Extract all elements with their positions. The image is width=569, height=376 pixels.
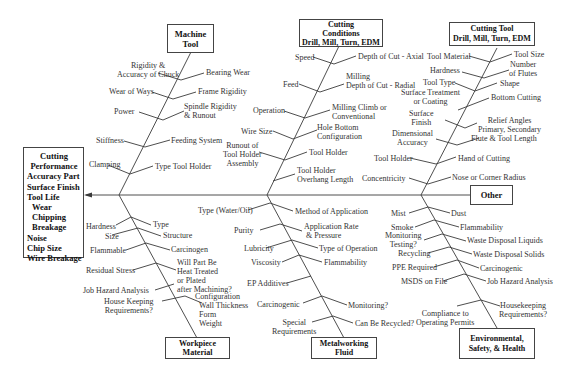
category-title-line: Material bbox=[166, 348, 229, 357]
cause-label: Purity bbox=[234, 226, 254, 235]
effect-box-cutting-performance: Cutting Performance Accuracy Part Surfac… bbox=[23, 147, 84, 258]
cause-label: Flammable bbox=[90, 246, 126, 255]
cause-label: Application Rate& Pressure bbox=[304, 222, 358, 240]
category-title-line: Drill, Mill, Turn, EDM bbox=[300, 38, 382, 47]
effect-item: Accuracy Part bbox=[27, 171, 81, 181]
cause-label: Surface Treatmentor Coating bbox=[401, 88, 460, 106]
cause-label: Tool Type bbox=[423, 78, 455, 87]
cause-label: EP Additives bbox=[247, 279, 289, 288]
cause-label: Mist bbox=[391, 209, 406, 218]
category-box-cutting-conditions: Cutting Conditions Drill, Mill, Turn, ED… bbox=[299, 19, 383, 47]
cause-label: Method of Application bbox=[295, 207, 368, 216]
effect-title-line: Cutting bbox=[27, 151, 81, 161]
cause-label: Tool Holder bbox=[374, 154, 413, 163]
effect-item: Chipping bbox=[27, 212, 81, 222]
cause-label: Relief AnglesPrimary, Secondary bbox=[478, 116, 541, 134]
cause-label: Numberof Flutes bbox=[509, 60, 537, 78]
cause-label: Feed bbox=[283, 80, 299, 89]
cause-label: Bottom Cutting bbox=[491, 93, 541, 102]
cause-label: Monitoring? bbox=[348, 301, 388, 310]
cause-label: Stiffness bbox=[96, 136, 124, 145]
cause-label: Flammability bbox=[324, 258, 367, 267]
cause-label: Operation bbox=[253, 106, 285, 115]
effect-item: Surface Finish bbox=[27, 182, 81, 192]
cause-label: Nose or Corner Radius bbox=[452, 173, 526, 182]
category-box-workpiece-material: Workpiece Material bbox=[165, 337, 230, 359]
cause-label: Waste Disposal Solids bbox=[473, 250, 544, 259]
cause-label: Carcinogen bbox=[171, 245, 208, 254]
effect-title-line: Performance bbox=[27, 161, 81, 171]
category-box-other: Other bbox=[470, 185, 513, 205]
cause-label: MonitoringTesting? bbox=[385, 231, 421, 249]
cause-label: Will Part BeHeat Treatedor Platedafter M… bbox=[177, 258, 232, 294]
category-title-line: Conditions bbox=[300, 29, 382, 38]
category-title-line: Metalworking bbox=[312, 339, 376, 348]
category-title-line: Cutting Tool bbox=[450, 24, 534, 34]
cause-label: Carcinogenic bbox=[480, 264, 523, 273]
cause-label: Job Hazard Analysis bbox=[487, 277, 553, 286]
cause-label: Concentricity bbox=[362, 174, 406, 183]
cause-label: Recycling bbox=[398, 249, 430, 258]
cause-label: Bearing Wear bbox=[206, 68, 250, 77]
category-title-line: Cutting bbox=[300, 20, 382, 29]
effect-item: Wear bbox=[27, 202, 81, 212]
cause-label: Type of Operation bbox=[319, 244, 378, 253]
effect-item: Noise bbox=[27, 233, 81, 243]
cause-label: Rigidity &Accuracy of Chuck bbox=[117, 61, 179, 79]
cause-label: Feeding System bbox=[171, 136, 222, 145]
cause-label: Flammability bbox=[460, 223, 503, 232]
cause-label: Dust bbox=[451, 209, 466, 218]
cause-label: HousekeepingRequirements? bbox=[499, 301, 547, 319]
cause-label: SurfaceFinish bbox=[409, 109, 433, 127]
effect-item: Tool Life bbox=[27, 192, 81, 202]
category-title-line: Environmental, bbox=[460, 334, 534, 344]
cause-label: Viscosity bbox=[251, 258, 281, 267]
cause-label: Flute & Tool Length bbox=[471, 134, 537, 143]
cause-label: Waste Disposal Liquids bbox=[467, 236, 543, 245]
cause-label: PPE Required bbox=[392, 263, 437, 272]
effect-item: Breakage bbox=[27, 222, 81, 232]
category-box-metalworking-fluid: Metalworking Fluid bbox=[311, 337, 377, 359]
cause-label: Tool Material bbox=[427, 52, 471, 61]
cause-label: Depth of Cut - Axial bbox=[358, 52, 424, 61]
cause-label: Size bbox=[105, 232, 119, 241]
cause-label: Milling Climb orConventional bbox=[332, 103, 387, 121]
cause-label: Tool HolderOverhang Length bbox=[297, 166, 353, 184]
cause-label: Speed bbox=[295, 53, 315, 62]
effect-item: Wire Breakage bbox=[27, 253, 81, 263]
cause-label: Hand of Cutting bbox=[458, 154, 510, 163]
cause-label: House KeepingRequirements? bbox=[104, 297, 154, 315]
category-box-environmental-safety-health: Environmental, Safety, & Health bbox=[459, 328, 535, 359]
cause-label: Can Be Recycled? bbox=[355, 319, 414, 328]
cause-label: Frame Rigidity bbox=[198, 87, 247, 96]
cause-label: Lubricity bbox=[244, 244, 274, 253]
cause-label: MSDS on File bbox=[401, 277, 447, 286]
category-title-line: Tool bbox=[168, 39, 213, 49]
cause-label: Type (Water/Oil) bbox=[198, 206, 253, 215]
cause-label: Type Tool Holder bbox=[155, 162, 212, 171]
cause-label: Compliance toOperating Permits bbox=[416, 309, 474, 327]
category-box-cutting-tool: Cutting Tool Drill, Mill, Turn, EDM bbox=[449, 22, 535, 46]
cause-label: Tool Size bbox=[514, 50, 544, 59]
cause-label: Power bbox=[114, 107, 134, 116]
cause-label: Shape bbox=[500, 79, 520, 88]
cause-label: Hole BottomConfiguration bbox=[317, 123, 362, 141]
effect-item: Chip Size bbox=[27, 243, 81, 253]
cause-label: Type bbox=[153, 220, 169, 229]
cause-label: ConfigurationWall ThicknessFormWeight bbox=[195, 292, 248, 328]
cause-label: Wire Size bbox=[241, 127, 272, 136]
cause-label: Residual Stress bbox=[86, 266, 135, 275]
cause-label: SpecialRequirements bbox=[272, 318, 316, 336]
cause-label: Tool Holder bbox=[309, 148, 348, 157]
cause-label: Spindle Rigidity& Runout bbox=[184, 102, 237, 120]
arrow-head-icon bbox=[84, 193, 92, 198]
category-title-line: Fluid bbox=[312, 348, 376, 357]
cause-label: Hardness bbox=[86, 222, 116, 231]
category-title-line: Machine bbox=[168, 29, 213, 39]
cause-label: DimensionalAccuracy bbox=[392, 129, 433, 147]
category-title-line: Drill, Mill, Turn, EDM bbox=[450, 34, 534, 44]
cause-label: Wear of Ways bbox=[109, 87, 154, 96]
cause-label: Structure bbox=[163, 231, 192, 240]
cause-label: Job Hazard Analysis bbox=[83, 286, 149, 295]
category-box-machine-tool: Machine Tool bbox=[167, 24, 214, 53]
